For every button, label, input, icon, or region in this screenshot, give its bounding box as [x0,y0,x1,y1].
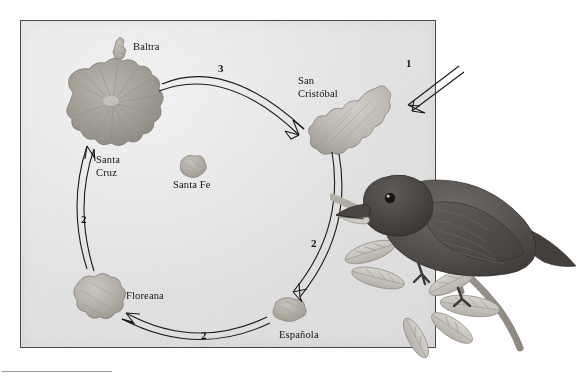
finch-eye [385,193,395,203]
step-label-1: 1 [406,57,412,69]
arrow-step-2-left [77,146,95,271]
step-label-2-left: 2 [81,213,87,225]
arrow-step-3 [159,77,304,139]
island-label-santa-fe: Santa Fe [173,179,211,192]
island-label-espanola: Española [279,329,319,342]
island-label-santa-cruz: Santa Cruz [96,154,120,179]
finch-beak [336,204,370,224]
step-label-2-bottom: 2 [201,329,207,341]
caption-divider-rule [2,371,112,372]
island-label-baltra: Baltra [133,41,160,54]
darwins-finch-illustration [330,170,580,375]
island-label-floreana: Floreana [126,290,164,303]
arrow-step-2-bottom [122,313,270,340]
finch-head [363,175,433,236]
step-label-2-right: 2 [311,237,317,249]
arrow-step-1 [408,66,464,113]
figure-canvas: Baltra Santa Cruz Santa Fe San Cristóbal… [0,0,587,382]
step-label-3: 3 [218,62,224,74]
island-label-san-cristobal: San Cristóbal [298,75,338,100]
